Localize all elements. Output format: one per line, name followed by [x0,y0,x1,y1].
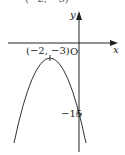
parabola-curve [14,58,86,143]
parabola-graph [0,0,125,155]
x-axis-label: x [113,45,119,55]
intercept-label: −15 [61,109,82,119]
vertex-label: (−2, −3) [26,46,70,56]
y-axis-arrow-icon [76,11,82,20]
top-partial-label: (−2, −3) [25,0,69,4]
origin-label: O [70,47,78,57]
y-axis-label: y [70,10,76,20]
